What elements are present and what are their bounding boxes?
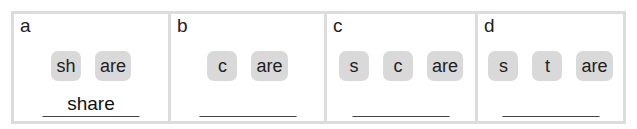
letter-tile: t <box>532 51 562 81</box>
letter-tile: sh <box>51 51 81 81</box>
letter-tile: are <box>95 51 131 81</box>
panel-a: a sh are share <box>14 14 168 121</box>
panel-letter: a <box>20 15 31 37</box>
answer-line[interactable] <box>353 92 450 117</box>
letter-tile: are <box>251 51 287 81</box>
letter-tile: s <box>339 51 369 81</box>
tile-row: s t are <box>478 51 623 81</box>
tile-row: sh are <box>14 51 168 81</box>
panel-letter: c <box>333 15 343 37</box>
letter-tile: are <box>427 51 463 81</box>
answer-line[interactable]: share <box>43 92 140 117</box>
letter-tile: c <box>383 51 413 81</box>
tile-row: c are <box>171 51 324 81</box>
panel-letter: b <box>177 15 188 37</box>
letter-tile: s <box>488 51 518 81</box>
letter-tile: c <box>207 51 237 81</box>
panel-letter: d <box>484 15 495 37</box>
answer-line[interactable] <box>502 92 599 117</box>
panel-b: b c are <box>168 14 324 121</box>
tile-row: s c are <box>327 51 475 81</box>
panel-d: d s t are <box>475 14 623 121</box>
panel-c: c s c are <box>324 14 475 121</box>
letter-tile: are <box>576 51 612 81</box>
word-building-grid: a sh are share b c are c s c are d s t a… <box>11 11 626 124</box>
answer-line[interactable] <box>199 92 296 117</box>
